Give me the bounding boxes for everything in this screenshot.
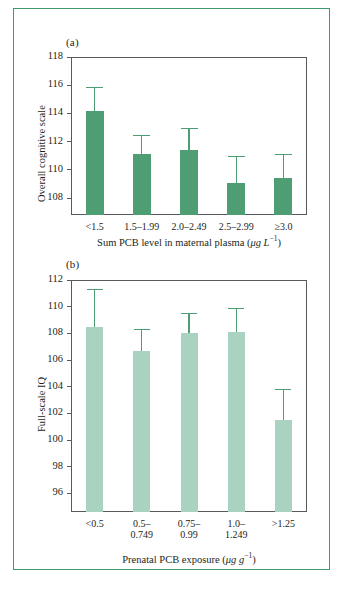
panel-b-x-axis-exponent: −1 (244, 551, 252, 560)
panel-b: (b) Full-scale IQ 9698100102104106108110… (0, 0, 340, 597)
x-tick-label: 1.0–1.249 (213, 518, 260, 540)
y-tick-label: 106 (27, 354, 63, 365)
x-tick-label: 0.5–0.749 (118, 518, 165, 540)
error-bar-stem (188, 313, 189, 333)
error-bar-cap (134, 329, 150, 330)
y-tick-mark (67, 386, 71, 387)
y-tick-mark (67, 306, 71, 307)
y-tick-mark (67, 280, 71, 281)
y-tick-mark (67, 333, 71, 334)
error-bar-cap (181, 313, 197, 314)
bar (133, 351, 150, 512)
error-bar-stem (94, 289, 95, 326)
y-tick-label: 104 (27, 381, 63, 392)
y-tick-label: 108 (27, 327, 63, 338)
panel-b-x-axis-title: Prenatal PCB exposure (μg g−1) (71, 551, 307, 565)
y-tick-mark (67, 440, 71, 441)
error-bar-stem (283, 389, 284, 420)
error-bar-stem (141, 329, 142, 350)
y-tick-label: 102 (27, 407, 63, 418)
y-tick-mark (67, 466, 71, 467)
bar (228, 332, 245, 512)
x-tick-label: 0.75–0.99 (165, 518, 212, 540)
y-tick-mark (67, 413, 71, 414)
bar (275, 420, 292, 512)
y-tick-label: 96 (27, 487, 63, 498)
panel-b-x-axis-title-text: Prenatal PCB exposure ( (122, 554, 226, 565)
bar (86, 327, 103, 512)
figure-root: (a) Overall cognitive scale 108110112114… (0, 0, 340, 597)
x-tick-label: >1.25 (260, 518, 307, 529)
error-bar-stem (236, 308, 237, 332)
y-tick-label: 112 (27, 274, 63, 285)
y-tick-label: 110 (27, 301, 63, 312)
error-bar-cap (275, 389, 291, 390)
panel-b-x-axis-paren: ) (252, 554, 256, 565)
error-bar-cap (228, 308, 244, 309)
y-tick-mark (67, 493, 71, 494)
y-tick-label: 98 (27, 461, 63, 472)
y-tick-label: 100 (27, 434, 63, 445)
x-tick-label: <0.5 (71, 518, 118, 529)
panel-b-x-axis-unit: μg g (226, 554, 244, 565)
error-bar-cap (87, 289, 103, 290)
panel-b-tag: (b) (66, 258, 79, 270)
bar (181, 333, 198, 512)
y-tick-mark (67, 360, 71, 361)
